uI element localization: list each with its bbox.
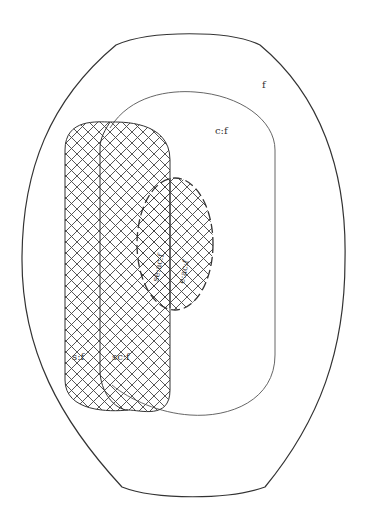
label-s-f: s:f [72, 351, 86, 362]
label-sc-f: sc:f [112, 351, 131, 362]
label-f: f [262, 79, 267, 90]
label-c-f: c:f [215, 125, 229, 136]
set-diagram: f c:f s:f sc:f se:ac:f e:ac:f [0, 0, 377, 527]
dashed-ellipse-ac-f [137, 178, 213, 310]
